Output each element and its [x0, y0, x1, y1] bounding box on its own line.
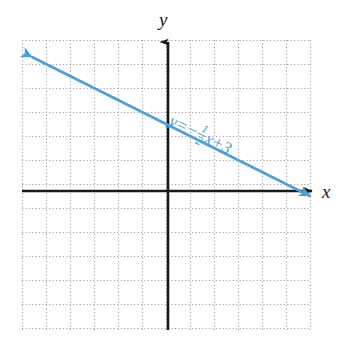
axes	[22, 42, 312, 330]
graph-figure: y x y=−12x+3	[0, 0, 345, 351]
coordinate-plane-svg	[0, 0, 345, 351]
x-axis-label: x	[322, 182, 330, 201]
y-axis-label: y	[159, 10, 167, 29]
grid-lines	[22, 40, 311, 330]
